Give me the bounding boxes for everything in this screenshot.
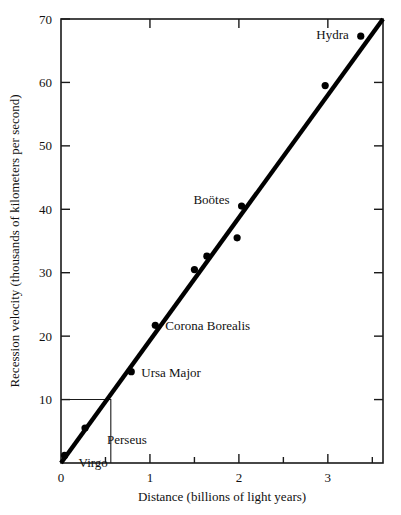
x-tick-label-1: 1 (147, 470, 154, 485)
x-axis-title: Distance (billions of light years) (138, 489, 306, 504)
point-label-virgo: Virgo (79, 455, 108, 470)
point-label-hydra: Hydra (316, 27, 349, 42)
data-point-bootes (238, 203, 245, 210)
point-label-ursa-major: Ursa Major (141, 365, 201, 380)
data-point-unlabeled-3 (234, 234, 241, 241)
data-point-perseus (81, 425, 88, 432)
y-tick-label-50: 50 (39, 138, 52, 153)
y-axis-title: Recession velocity (thousands of kilomet… (7, 94, 22, 387)
y-tick-label-20: 20 (39, 329, 52, 344)
data-point-corona-borealis (152, 322, 159, 329)
x-tick-label-3: 3 (325, 470, 332, 485)
data-point-ursa-major (128, 368, 135, 375)
data-point-unlabeled-4 (322, 82, 329, 89)
hubble-diagram-figure: 10203040506070 0123 VirgoPerseusUrsa Maj… (0, 0, 401, 515)
point-label-bootes: Boötes (193, 192, 229, 207)
data-point-virgo (61, 452, 68, 459)
y-tick-label-60: 60 (39, 75, 52, 90)
scatter-plot-canvas: 10203040506070 0123 VirgoPerseusUrsa Maj… (0, 0, 401, 515)
y-tick-label-70: 70 (39, 12, 52, 27)
y-tick-label-30: 30 (39, 265, 52, 280)
data-point-unlabeled-1 (191, 266, 198, 273)
y-tick-label-10: 10 (39, 392, 52, 407)
point-label-perseus: Perseus (107, 432, 147, 447)
data-point-unlabeled-2 (203, 253, 210, 260)
x-tick-label-0: 0 (58, 470, 65, 485)
x-tick-label-2: 2 (236, 470, 243, 485)
point-label-corona-borealis: Corona Borealis (165, 318, 250, 333)
y-tick-label-40: 40 (39, 202, 52, 217)
data-point-hydra (357, 33, 364, 40)
